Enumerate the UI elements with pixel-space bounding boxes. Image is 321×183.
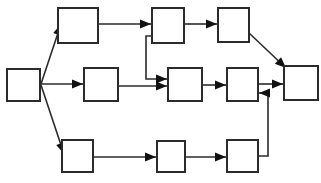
arrowhead-icon-m3-to-end [272,79,283,88]
node-m2[interactable] [168,68,202,101]
node-b3[interactable] [227,140,258,172]
node-box-t1[interactable] [58,8,98,43]
node-box-b2[interactable] [157,141,185,172]
node-box-b3[interactable] [227,140,258,172]
flow-graph [0,0,321,183]
node-b1[interactable] [62,140,93,172]
node-box-m2[interactable] [168,68,202,101]
arrowhead-icon-m2-to-m3 [215,80,226,89]
node-box-m1[interactable] [84,68,118,101]
arrowhead-icon-m1-to-m2 [156,81,167,90]
arrowhead-icon-b3-to-m3 [259,88,270,97]
node-t2[interactable] [152,8,184,43]
node-box-b1[interactable] [62,140,93,172]
node-box-t2[interactable] [152,8,184,43]
node-box-end[interactable] [284,66,318,100]
node-t1[interactable] [58,8,98,43]
node-box-start[interactable] [7,69,40,101]
node-end[interactable] [284,66,318,100]
node-m1[interactable] [84,68,118,101]
node-box-m3[interactable] [227,68,258,101]
diagram-canvas [0,0,321,183]
arrowhead-icon-start-to-m1 [72,79,83,88]
edge-b3-to-m3 [259,93,268,156]
node-b2[interactable] [157,141,185,172]
arrowhead-icon-t2-to-t3 [206,19,217,28]
arrowhead-icon-b1-to-b2 [145,152,156,161]
arrowhead-icon-t1-to-t2 [140,19,151,28]
node-t3[interactable] [218,8,249,42]
node-m3[interactable] [227,68,258,101]
node-start[interactable] [7,69,40,101]
arrowhead-icon-b2-to-b3 [215,152,226,161]
node-box-t3[interactable] [218,8,249,42]
